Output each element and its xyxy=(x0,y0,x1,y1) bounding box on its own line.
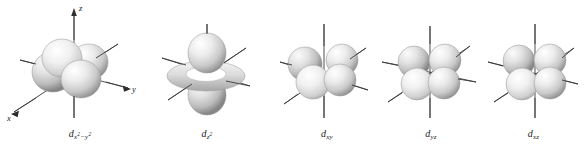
axis-label-y: y xyxy=(132,84,136,94)
axis-lines-front-dxz xyxy=(488,24,578,118)
axis-lines-dyz xyxy=(382,26,476,118)
d-orbital-figure: z y x dx2−y2 xyxy=(0,0,585,145)
orbital-label-sub: xz xyxy=(533,133,539,141)
orbital-lobes-dz2-top xyxy=(188,33,226,73)
orbital-label-sup1: 2 xyxy=(77,131,80,137)
orbital-panel-dx2-y2: z y x dx2−y2 xyxy=(0,0,160,145)
orbital-render-dxy xyxy=(272,0,382,145)
orbital-label-sup1: 2 xyxy=(210,131,213,137)
axis-lines-dxz xyxy=(488,24,578,118)
orbital-label-sup2: 2 xyxy=(88,131,91,137)
orbital-label-dz2: dz2 xyxy=(152,128,262,139)
orbital-lobes-dxy xyxy=(288,44,358,99)
orbital-label-sub: xy xyxy=(326,133,333,141)
orbital-panel-dxz: dxz xyxy=(482,0,585,145)
axis-label-x: x xyxy=(7,113,11,123)
orbital-render-dx2-y2 xyxy=(0,0,160,145)
orbital-label-dx2-y2: dx2−y2 xyxy=(0,128,160,139)
orbital-render-dz2 xyxy=(152,0,262,145)
orbital-label-dxz: dxz xyxy=(482,128,585,139)
orbital-panel-dxy: dxy xyxy=(272,0,382,145)
orbital-label-sub: yz xyxy=(430,133,436,141)
orbital-render-dyz xyxy=(378,0,484,145)
orbital-lobes-dx2-y2 xyxy=(32,39,108,98)
axis-label-z: z xyxy=(79,3,82,13)
orbital-panel-dz2: dz2 xyxy=(152,0,262,145)
orbital-label-dxy: dxy xyxy=(272,128,382,139)
orbital-label-dyz: dyz xyxy=(378,128,484,139)
orbital-render-dxz xyxy=(482,0,585,145)
orbital-lobes-dxz xyxy=(503,44,566,100)
orbital-panel-dyz: dyz xyxy=(378,0,484,145)
